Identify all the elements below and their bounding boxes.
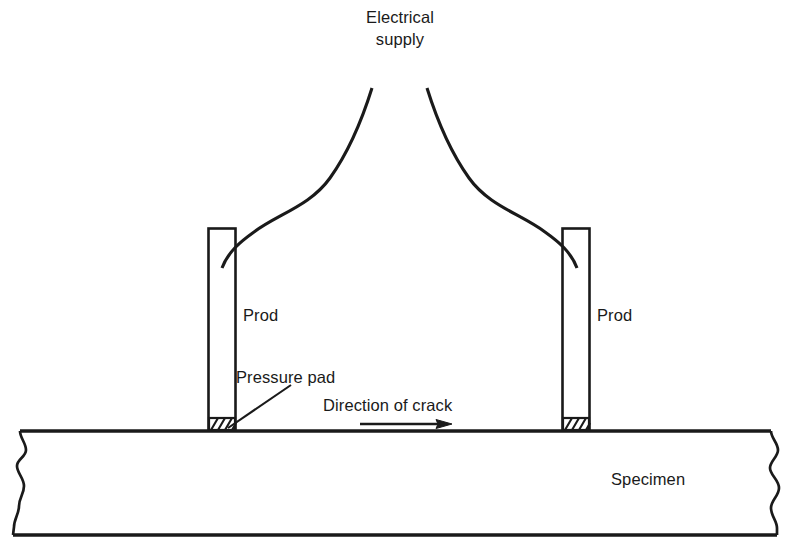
cable-curve-icon-right	[427, 88, 577, 268]
electrical-supply-label-line2: supply	[376, 30, 425, 48]
specimen-label: Specimen	[611, 470, 685, 488]
cable-curve-icon-left	[222, 88, 372, 268]
break-line-icon-right	[770, 431, 779, 535]
hatched-pad-icon-left	[209, 418, 236, 430]
break-line-icon-left	[13, 431, 26, 535]
hatched-pad-icon-right	[563, 418, 590, 430]
arrow-right-icon	[360, 420, 452, 429]
prod-left-body	[209, 229, 236, 431]
prod-left-label: Prod	[243, 306, 278, 324]
leader-line-icon	[228, 385, 291, 428]
diagram-canvas: Electrical supply Prod Prod Pressure pad…	[0, 0, 801, 555]
electrical-supply-label-line1: Electrical	[366, 8, 434, 26]
direction-of-crack-label: Direction of crack	[323, 396, 453, 414]
pressure-pad-label: Pressure pad	[236, 368, 335, 386]
prod-right-body	[563, 229, 590, 431]
prod-right-label: Prod	[597, 306, 632, 324]
prod-magnetisation-diagram: Electrical supply Prod Prod Pressure pad…	[0, 0, 801, 555]
